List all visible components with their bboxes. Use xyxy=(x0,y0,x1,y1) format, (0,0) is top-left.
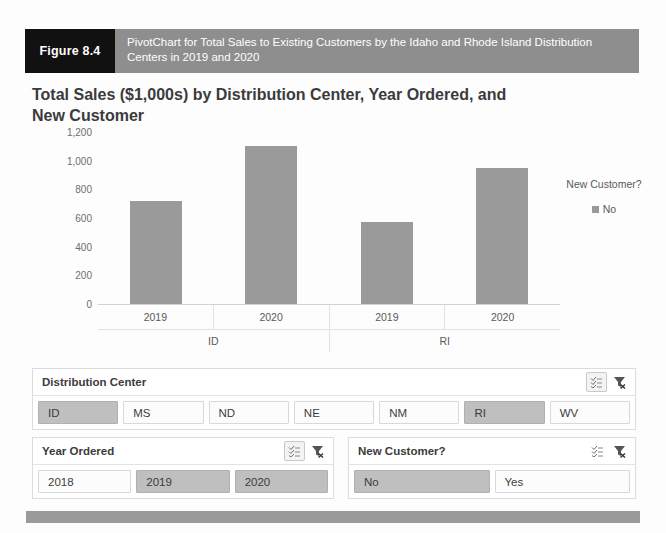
bar[interactable] xyxy=(245,146,297,304)
category-label-row: 2019202020192020 xyxy=(98,305,560,329)
bar-series-no xyxy=(98,132,560,304)
chart-legend: New Customer? No xyxy=(556,178,652,215)
bar[interactable] xyxy=(476,168,528,304)
slicer-distribution-center[interactable]: Distribution Center IDMSNDNENMRIWV xyxy=(32,368,636,430)
slicer-title: Year Ordered xyxy=(42,445,281,457)
slicer-tile[interactable]: ND xyxy=(209,401,289,424)
slicer-tile[interactable]: ID xyxy=(38,401,118,424)
bar-slot xyxy=(214,132,330,304)
slicer-items: IDMSNDNENMRIWV xyxy=(33,396,635,429)
clear-filter-icon[interactable] xyxy=(610,373,629,391)
slicer-header: New Customer? xyxy=(349,438,635,465)
multi-select-icon[interactable] xyxy=(586,372,607,392)
slicer-tile[interactable]: No xyxy=(354,470,490,493)
group-label: ID xyxy=(98,330,330,352)
group-label: RI xyxy=(330,330,561,352)
slicer-year-ordered[interactable]: Year Ordered 201820192020 xyxy=(32,437,334,499)
slicer-tile[interactable]: 2018 xyxy=(38,470,131,493)
bar-slot xyxy=(98,132,214,304)
bar[interactable] xyxy=(130,201,182,304)
legend-item-label: No xyxy=(603,203,616,215)
bar[interactable] xyxy=(361,222,413,304)
category-label: 2019 xyxy=(98,305,214,329)
slicer-tile[interactable]: RI xyxy=(464,401,544,424)
legend-title: New Customer? xyxy=(556,178,652,191)
y-axis-tick: 1,000 xyxy=(32,155,92,166)
pivot-chart[interactable]: 02004006008001,0001,200 2019202020192020… xyxy=(30,132,630,357)
figure-page: Figure 8.4 PivotChart for Total Sales to… xyxy=(0,0,666,533)
bar-slot xyxy=(445,132,561,304)
category-label: 2020 xyxy=(214,305,330,329)
y-axis-tick: 1,200 xyxy=(32,127,92,138)
plot-area xyxy=(98,132,560,304)
slicer-header: Year Ordered xyxy=(33,438,333,465)
figure-caption-bar: Figure 8.4 PivotChart for Total Sales to… xyxy=(25,29,639,73)
y-axis-tick: 200 xyxy=(32,270,92,281)
legend-item-no: No xyxy=(556,203,652,215)
slicer-items: NoYes xyxy=(349,465,635,498)
slicer-items: 201820192020 xyxy=(33,465,333,498)
clear-filter-icon[interactable] xyxy=(610,442,629,460)
legend-swatch-icon xyxy=(592,206,599,213)
figure-caption-text: PivotChart for Total Sales to Existing C… xyxy=(115,29,639,73)
page-footer-bar xyxy=(26,511,640,523)
slicer-tile[interactable]: Yes xyxy=(495,470,631,493)
multi-select-icon[interactable] xyxy=(588,442,607,460)
multi-select-icon[interactable] xyxy=(284,441,305,461)
group-label-row: IDRI xyxy=(98,329,560,352)
slicer-tile[interactable]: NM xyxy=(379,401,459,424)
slicer-tile[interactable]: 2020 xyxy=(235,470,328,493)
y-axis-tick: 0 xyxy=(32,299,92,310)
slicer-header: Distribution Center xyxy=(33,369,635,396)
category-label: 2020 xyxy=(445,305,560,329)
slicer-tile[interactable]: NE xyxy=(294,401,374,424)
figure-number-label: Figure 8.4 xyxy=(25,29,115,73)
y-axis-tick: 400 xyxy=(32,241,92,252)
y-axis-tick: 600 xyxy=(32,213,92,224)
y-axis-tick: 800 xyxy=(32,184,92,195)
slicer-title: Distribution Center xyxy=(42,376,583,388)
slicer-new-customer[interactable]: New Customer? NoYes xyxy=(348,437,636,499)
y-axis: 02004006008001,0001,200 xyxy=(30,132,92,304)
slicer-tile[interactable]: MS xyxy=(123,401,203,424)
slicer-tile[interactable]: WV xyxy=(550,401,630,424)
clear-filter-icon[interactable] xyxy=(308,442,327,460)
bar-slot xyxy=(329,132,445,304)
slicer-tile[interactable]: 2019 xyxy=(136,470,229,493)
slicer-title: New Customer? xyxy=(358,445,585,457)
category-label: 2019 xyxy=(330,305,446,329)
chart-title: Total Sales ($1,000s) by Distribution Ce… xyxy=(32,84,532,126)
